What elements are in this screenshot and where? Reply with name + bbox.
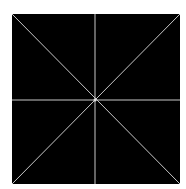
center-point <box>94 99 97 102</box>
square-diagram <box>0 0 186 189</box>
